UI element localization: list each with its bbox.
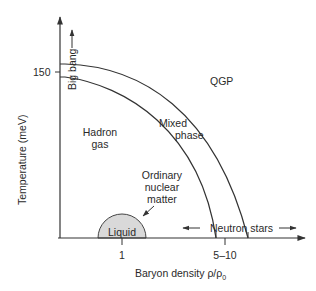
big-bang-label: Big bang [66, 49, 78, 90]
x-axis-label-symbol: ρ/ρ [207, 267, 222, 279]
neutron-stars-label: Neutron stars [210, 222, 273, 234]
x-axis-label-text: Baryon density [135, 267, 207, 279]
qgp-region-label: QGP [210, 75, 233, 87]
ordinary-line3: matter [134, 193, 190, 205]
liquid-label: Liquid [105, 226, 139, 238]
phase-diagram-canvas [0, 0, 316, 291]
x-axis-label-subscript: 0 [222, 274, 226, 281]
ordinary-matter-pointer-icon [143, 206, 154, 216]
x-axis-label: Baryon density ρ/ρ0 [135, 267, 226, 284]
hadron-gas-line1: Hadron [82, 126, 118, 138]
mixed-phase-line1: Mixed [159, 117, 204, 129]
ordinary-nuclear-matter-label: Ordinary nuclear matter [134, 169, 190, 205]
hadron-gas-line2: gas [82, 138, 118, 150]
mixed-phase-label: Mixed phase [159, 117, 204, 141]
ordinary-line1: Ordinary [134, 169, 190, 181]
mixed-phase-line2: phase [159, 129, 204, 141]
inner-phase-boundary [65, 77, 216, 238]
x-tick-label-1: 1 [112, 249, 132, 261]
y-axis-label: Temperature (meV) [16, 115, 28, 205]
ordinary-line2: nuclear [134, 181, 190, 193]
x-tick-label-5-10: 5–10 [208, 249, 242, 261]
hadron-gas-label: Hadron gas [82, 126, 118, 150]
y-tick-label-150: 150 [33, 66, 51, 78]
outer-phase-boundary [65, 64, 248, 238]
